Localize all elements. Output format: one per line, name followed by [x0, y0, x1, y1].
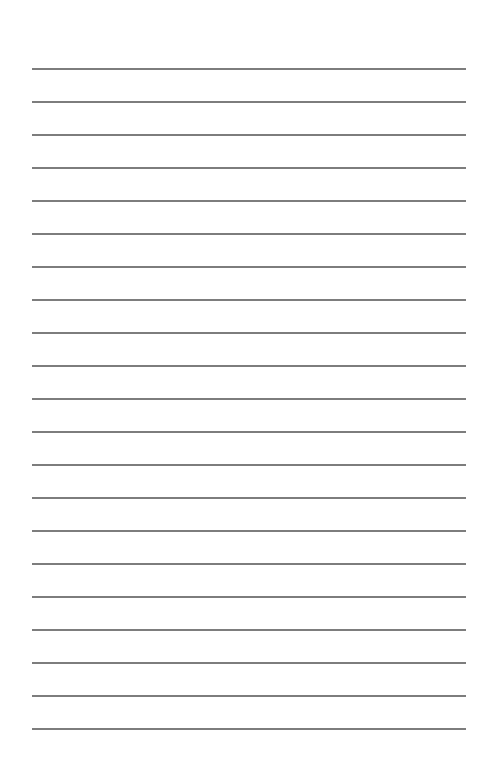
ruled-line	[32, 728, 466, 730]
ruled-line	[32, 266, 466, 268]
ruled-line	[32, 662, 466, 664]
ruled-line	[32, 497, 466, 499]
ruled-line	[32, 68, 466, 70]
ruled-line	[32, 431, 466, 433]
ruled-line	[32, 530, 466, 532]
ruled-line	[32, 200, 466, 202]
ruled-line	[32, 134, 466, 136]
ruled-line	[32, 596, 466, 598]
ruled-line	[32, 332, 466, 334]
ruled-line	[32, 398, 466, 400]
ruled-line	[32, 563, 466, 565]
ruled-line	[32, 365, 466, 367]
ruled-line	[32, 695, 466, 697]
ruled-line	[32, 233, 466, 235]
ruled-line	[32, 167, 466, 169]
ruled-line	[32, 629, 466, 631]
ruled-line	[32, 101, 466, 103]
ruled-line	[32, 464, 466, 466]
ruled-line	[32, 299, 466, 301]
lined-paper-page	[0, 0, 492, 774]
